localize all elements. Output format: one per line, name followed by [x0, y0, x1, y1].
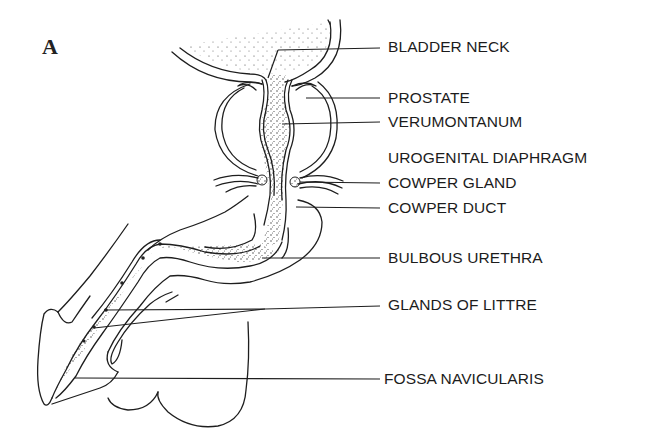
label-cowper-gland: COWPER GLAND: [388, 175, 517, 191]
urethra-anatomy-drawing: [0, 0, 660, 448]
label-bulbous-urethra: BULBOUS URETHRA: [388, 250, 543, 266]
label-bladder-neck: BLADDER NECK: [388, 39, 510, 55]
penile-urethra: [52, 214, 288, 398]
label-glands-of-littre: GLANDS OF LITTRE: [388, 297, 537, 313]
label-cowper-duct: COWPER DUCT: [388, 200, 506, 216]
bladder: [172, 20, 341, 86]
label-prostate: PROSTATE: [388, 90, 470, 106]
label-urogenital-diaphragm: UROGENITAL DIAPHRAGM: [388, 150, 587, 166]
label-fossa-navicularis: FOSSA NAVICULARIS: [384, 371, 544, 387]
label-verumontanum: VERUMONTANUM: [388, 114, 522, 130]
scrotum: [108, 322, 249, 427]
panel-letter: A: [42, 34, 58, 60]
prostatic-urethra: [259, 74, 294, 246]
